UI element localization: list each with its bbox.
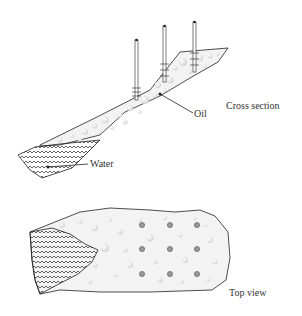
top-view-label: Top view xyxy=(229,287,266,298)
well-1 xyxy=(132,39,141,100)
diagram: Oil Water Cross section Top view xyxy=(0,0,302,316)
cross-section-label: Cross section xyxy=(226,100,280,111)
water-label: Water xyxy=(90,158,114,169)
oil-label: Oil xyxy=(194,108,207,119)
diagram-svg xyxy=(0,0,302,316)
cross-section-oil-layer xyxy=(40,48,228,146)
cross-section-water-layer xyxy=(18,140,100,178)
